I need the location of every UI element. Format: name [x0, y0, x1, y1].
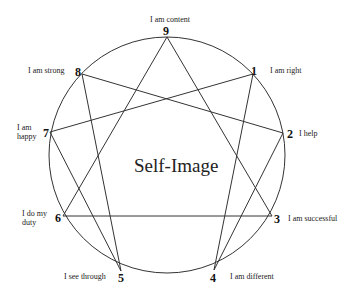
- point-label-1: I am right: [270, 66, 302, 75]
- point-label-6-line2: duty: [22, 218, 36, 227]
- point-label-3: I am successful: [288, 214, 338, 223]
- point-number-6: 6: [55, 211, 61, 225]
- point-label-9: I am content: [150, 15, 191, 24]
- point-label-2: I help: [299, 129, 317, 138]
- point-number-1: 1: [251, 64, 257, 78]
- point-number-7: 7: [43, 126, 49, 140]
- point-number-5: 5: [118, 271, 124, 285]
- point-number-8: 8: [75, 65, 81, 79]
- point-label-5: I see through: [64, 272, 106, 281]
- point-label-8: I am strong: [28, 66, 64, 75]
- point-label-4: I am different: [230, 272, 275, 281]
- diagram-title: Self-Image: [134, 155, 218, 176]
- point-number-3: 3: [274, 212, 280, 226]
- inner-triangle: [63, 37, 272, 216]
- enneagram-diagram: Self-Image 9 I am content 1 I am right 2…: [0, 0, 356, 300]
- point-number-4: 4: [210, 271, 216, 285]
- point-number-2: 2: [287, 127, 293, 141]
- point-label-7-line2: happy: [17, 132, 37, 141]
- point-number-9: 9: [163, 24, 169, 38]
- point-label-7-line1: I am: [17, 123, 32, 132]
- point-label-6-line1: I do my: [22, 209, 47, 218]
